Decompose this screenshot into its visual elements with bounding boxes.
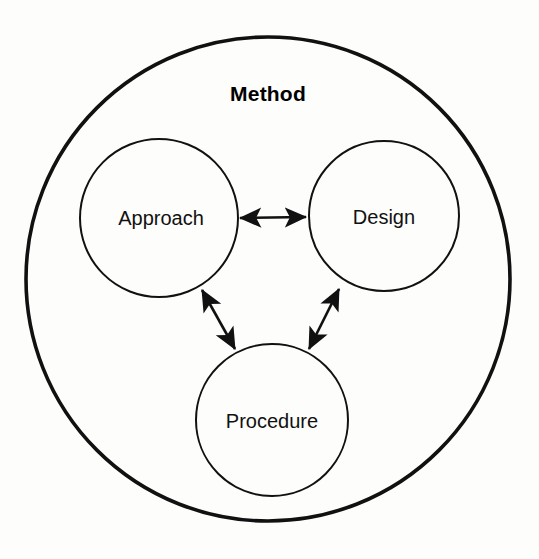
method-diagram: Method Approach Design Procedure: [0, 0, 539, 559]
outer-method-circle: [26, 37, 510, 521]
connector-approach-design: [240, 217, 306, 218]
node-label-design: Design: [353, 206, 415, 228]
node-label-procedure: Procedure: [226, 410, 318, 432]
connector-approach-procedure: [202, 290, 235, 349]
node-label-approach: Approach: [118, 207, 204, 229]
diagram-canvas: Method Approach Design Procedure: [0, 0, 539, 559]
outer-circle-title: Method: [230, 82, 306, 105]
connector-design-procedure: [309, 289, 339, 349]
